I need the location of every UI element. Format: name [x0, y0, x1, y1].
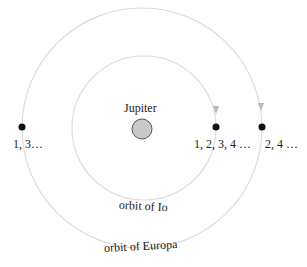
- position-label-left: 1, 3…: [13, 138, 43, 150]
- europa-direction-arrow-icon: [258, 103, 264, 111]
- position-dot-europa-right: [259, 124, 266, 131]
- position-dot-io-right: [213, 124, 220, 131]
- position-label-io-right: 1, 2, 3, 4 …: [194, 138, 251, 150]
- position-label-europa-right: 2, 4 …: [265, 138, 298, 150]
- orbit-diagram: [0, 0, 307, 267]
- europa-orbit-label: orbit of Europa: [104, 238, 178, 254]
- jupiter: [132, 119, 152, 139]
- position-dot-left: [19, 124, 26, 131]
- jupiter-label: Jupiter: [124, 102, 157, 114]
- io-orbit-label: orbit of Io: [119, 199, 168, 214]
